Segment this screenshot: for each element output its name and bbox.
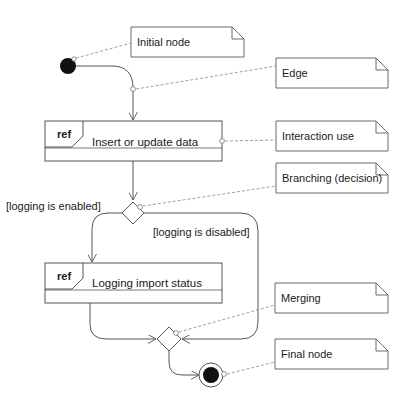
action-label: Logging import status bbox=[92, 277, 202, 289]
initial-node bbox=[60, 57, 76, 74]
guard-enabled: [logging is enabled] bbox=[6, 200, 101, 212]
edge-anchor bbox=[131, 87, 136, 92]
note-label: Final node bbox=[281, 348, 332, 360]
note-label: Interaction use bbox=[282, 130, 354, 142]
note-label: Edge bbox=[282, 67, 308, 79]
action-logging-import-status: ref Logging import status bbox=[45, 263, 222, 303]
activity-diagram: ref Insert or update data [logging is en… bbox=[0, 0, 411, 406]
note-interaction-use: Interaction use bbox=[276, 121, 388, 151]
note-label: Initial node bbox=[137, 36, 190, 48]
action-insert-or-update-data: ref Insert or update data bbox=[45, 121, 224, 161]
ref-label: ref bbox=[57, 128, 71, 140]
note-connectors bbox=[76, 43, 276, 374]
ref-label: ref bbox=[57, 270, 71, 282]
note-label: Merging bbox=[281, 292, 321, 304]
edge-merge-to-final bbox=[169, 351, 199, 375]
edge-logging-to-merge bbox=[90, 303, 156, 339]
edge-initial-to-insert bbox=[76, 66, 133, 120]
note-final-node: Final node bbox=[275, 339, 388, 369]
note-merging: Merging bbox=[275, 283, 388, 313]
note-branching: Branching (decision) bbox=[276, 163, 388, 193]
decision-node bbox=[122, 202, 144, 224]
final-node bbox=[199, 363, 226, 387]
merge-node bbox=[157, 327, 181, 351]
note-initial-node: Initial node bbox=[131, 27, 244, 57]
note-label: Branching (decision) bbox=[282, 172, 382, 184]
note-edge: Edge bbox=[276, 58, 388, 88]
action-label: Insert or update data bbox=[92, 136, 199, 148]
guard-disabled: [logging is disabled] bbox=[153, 226, 250, 238]
edge-decision-to-logging bbox=[92, 213, 122, 262]
